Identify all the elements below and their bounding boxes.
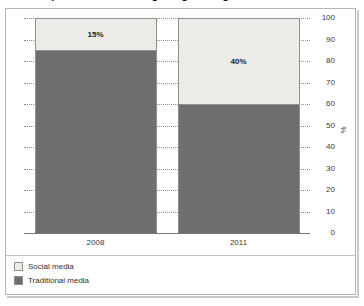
segment-divider <box>35 50 157 51</box>
legend-swatch-icon <box>14 262 23 271</box>
chart-figure: Proportion of marketing budget assigned … <box>0 0 364 306</box>
axis-baseline <box>24 233 310 234</box>
x-axis-category-label: 2008 <box>24 238 167 248</box>
chart-title: Proportion of marketing budget assigned … <box>0 0 364 2</box>
segment-divider <box>178 104 300 105</box>
bar-segment-social-media[interactable]: 40% <box>178 18 300 104</box>
x-axis-category-label: 2011 <box>167 238 310 248</box>
y-axis-tick-label: 10 <box>313 208 335 216</box>
bar-segment-traditional-media[interactable] <box>35 50 157 233</box>
plot-area: 15%40% <box>24 18 310 233</box>
bar-data-label: 15% <box>36 30 156 39</box>
legend-item[interactable]: Social media <box>14 259 214 273</box>
y-axis-tick-label: 30 <box>313 165 335 173</box>
y-axis-tick-label: 80 <box>313 57 335 65</box>
y-axis-tick-label: 100 <box>313 14 335 22</box>
legend-swatch-icon <box>14 276 23 285</box>
bar-group[interactable]: 40% <box>178 18 300 233</box>
y-axis-tick-label: 70 <box>313 79 335 87</box>
y-axis-tick-label: 40 <box>313 143 335 151</box>
legend-divider <box>6 255 355 256</box>
bar-group[interactable]: 15% <box>35 18 157 233</box>
chart-title-strip: Proportion of marketing budget assigned … <box>0 0 364 3</box>
legend-item-label: Traditional media <box>28 276 89 285</box>
legend-item[interactable]: Traditional media <box>14 273 214 287</box>
y-axis-tick-label: 0 <box>313 229 335 237</box>
y-axis-tick-label: 60 <box>313 100 335 108</box>
bar-segment-social-media[interactable]: 15% <box>35 18 157 50</box>
y-axis-tick-label: 20 <box>313 186 335 194</box>
bar-segment-traditional-media[interactable] <box>178 104 300 233</box>
bar-data-label: 40% <box>179 57 299 66</box>
y-axis-tick-labels: 1009080706050403020100 <box>313 18 339 233</box>
y-axis-tick-label: 90 <box>313 36 335 44</box>
legend-item-label: Social media <box>28 262 74 271</box>
chart-legend: Social mediaTraditional media <box>14 259 214 287</box>
y-axis-tick-label: 50 <box>313 122 335 130</box>
x-axis-category-labels: 20082011 <box>24 238 310 252</box>
y-axis-label: % <box>340 126 348 133</box>
